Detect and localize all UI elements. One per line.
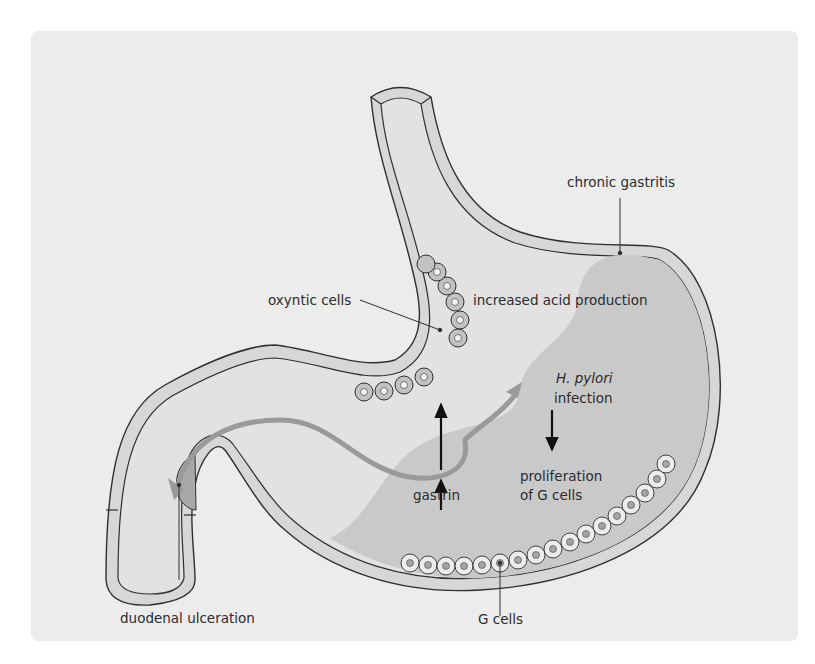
label-chronic-gastritis: chronic gastritis (567, 174, 675, 190)
label-duodenal-ulceration: duodenal ulceration (120, 610, 255, 626)
label-increased-acid: increased acid production (473, 292, 648, 308)
stomach-diagram: chronic gastritis oxyntic cells increase… (0, 0, 815, 664)
label-g-cells: G cells (478, 611, 523, 627)
label-oxyntic-cells: oxyntic cells (268, 292, 351, 308)
label-infection: infection (554, 390, 613, 406)
label-proliferation: proliferation (520, 468, 602, 484)
label-h-pylori: H. pylori (556, 370, 613, 386)
label-of-g-cells: of G cells (520, 487, 582, 503)
label-gastrin: gastrin (413, 487, 460, 503)
